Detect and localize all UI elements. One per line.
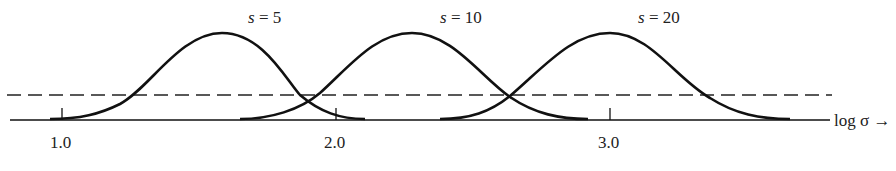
curve-s5 [50,33,365,119]
tick-label-1: 1.0 [50,133,71,152]
axis-label: log σ → [834,111,890,130]
curve-label-s10: s = 10 [440,8,482,27]
curve-label-s5: s = 5 [248,8,281,27]
curve-label-s20: s = 20 [638,8,680,27]
curve-s20 [440,33,790,119]
curve-s10 [240,33,588,119]
diagram: s = 5 s = 10 s = 20 1.0 2.0 3.0 log σ → [0,0,896,171]
tick-label-3: 3.0 [598,133,619,152]
tick-label-2: 2.0 [324,133,345,152]
